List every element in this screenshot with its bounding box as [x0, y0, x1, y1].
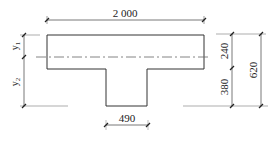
- svg-text:y2: y2: [9, 77, 22, 86]
- y2-label: y2: [9, 77, 22, 86]
- y1-label: y1: [9, 41, 22, 50]
- total-height-dimension: [259, 32, 263, 108]
- lower-height-label: 380: [218, 78, 230, 95]
- t-section-diagram: 2 000 y1 y2 240 380 620: [0, 0, 277, 142]
- web-width-label: 490: [119, 112, 136, 124]
- svg-text:380: 380: [218, 78, 230, 95]
- flange-width-label: 2 000: [113, 7, 138, 19]
- left-dimension: [20, 33, 68, 108]
- svg-text:620: 620: [247, 61, 259, 78]
- height-split-dimension: [230, 32, 234, 108]
- total-height-label: 620: [247, 61, 259, 78]
- t-section-outline: [47, 35, 204, 106]
- svg-text:y1: y1: [9, 41, 22, 50]
- upper-height-label: 240: [218, 42, 230, 59]
- svg-text:240: 240: [218, 42, 230, 59]
